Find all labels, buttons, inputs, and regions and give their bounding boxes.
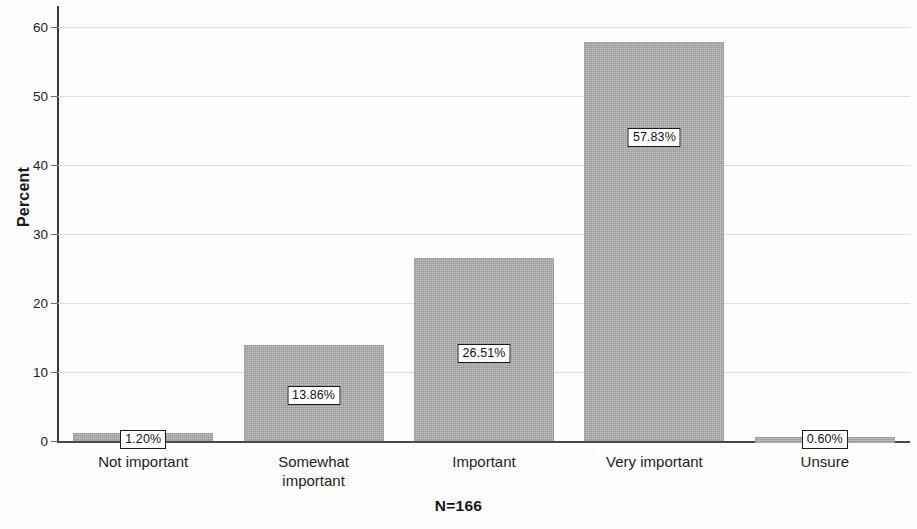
bar-chart: Percent 6050403020100 1.20%13.86%26.51%5… bbox=[0, 0, 917, 529]
gridline bbox=[58, 27, 910, 28]
x-axis-category-label: Not important bbox=[48, 452, 238, 471]
y-axis-tick-label: 20 bbox=[2, 296, 48, 311]
x-axis-category-label: Somewhatimportant bbox=[218, 452, 408, 490]
y-axis-tick-labels: 6050403020100 bbox=[0, 0, 48, 529]
category-label-line: important bbox=[218, 471, 408, 490]
y-axis-tick-label: 50 bbox=[2, 89, 48, 104]
y-axis-tick-mark bbox=[51, 234, 58, 235]
x-axis-category-label: Unsure bbox=[730, 452, 917, 471]
y-axis-tick-mark bbox=[51, 165, 58, 166]
y-axis-tick-mark bbox=[51, 96, 58, 97]
x-axis-category-label: Important bbox=[389, 452, 579, 471]
y-axis-tick-mark bbox=[51, 27, 58, 28]
gridline bbox=[58, 234, 910, 235]
bar-value-label: 1.20% bbox=[120, 430, 166, 449]
y-axis-tick-label: 60 bbox=[2, 20, 48, 35]
gridline bbox=[58, 165, 910, 166]
category-label-line: Not important bbox=[48, 452, 238, 471]
bar-value-label: 26.51% bbox=[458, 344, 511, 363]
x-axis-category-label: Very important bbox=[559, 452, 749, 471]
bar-value-label: 57.83% bbox=[628, 128, 681, 147]
category-label-line: Unsure bbox=[730, 452, 917, 471]
plot-area: 1.20%13.86%26.51%57.83%0.60% bbox=[58, 8, 910, 442]
category-label-line: Important bbox=[389, 452, 579, 471]
bar-value-label: 0.60% bbox=[802, 430, 848, 449]
y-axis-tick-mark bbox=[51, 303, 58, 304]
y-axis-tick-label: 40 bbox=[2, 158, 48, 173]
category-label-line: Somewhat bbox=[218, 452, 408, 471]
y-axis-tick-label: 0 bbox=[2, 434, 48, 449]
category-label-line: Very important bbox=[559, 452, 749, 471]
gridline bbox=[58, 96, 910, 97]
y-axis-tick-mark bbox=[51, 372, 58, 373]
bar-value-label: 13.86% bbox=[287, 386, 340, 405]
y-axis-tick-label: 10 bbox=[2, 365, 48, 380]
y-axis-tick-label: 30 bbox=[2, 227, 48, 242]
y-axis-tick-mark bbox=[51, 441, 58, 442]
bar bbox=[584, 42, 724, 441]
sample-size-note: N=166 bbox=[0, 497, 917, 515]
